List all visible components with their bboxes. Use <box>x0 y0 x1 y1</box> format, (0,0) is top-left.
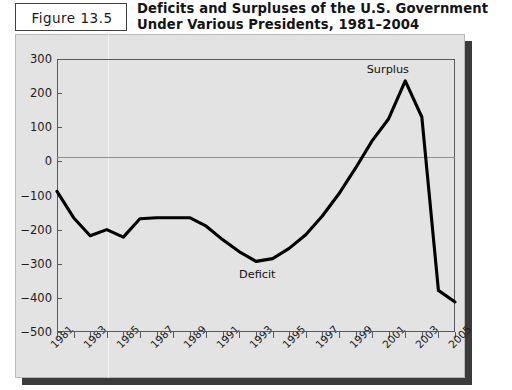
data-line-chart <box>0 0 512 390</box>
deficit-annotation: Deficit <box>239 268 276 281</box>
surplus-annotation: Surplus <box>367 63 409 76</box>
